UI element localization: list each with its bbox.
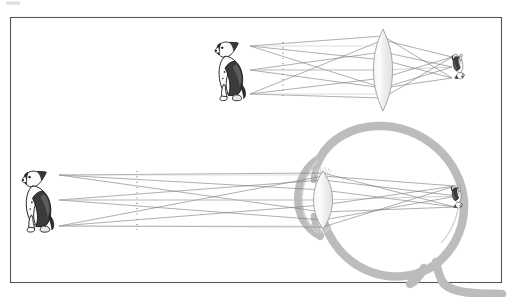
human-eye-diagram xyxy=(22,126,502,294)
ray-feet-axial xyxy=(250,57,452,94)
figure-border xyxy=(11,18,502,283)
ray-head-axial xyxy=(250,46,452,78)
ray-bundle-top-panel xyxy=(250,36,452,98)
scan-artifact xyxy=(6,2,20,5)
ray-mid-upper xyxy=(250,52,452,70)
image-dog-top xyxy=(452,54,465,79)
sclera xyxy=(320,126,464,277)
converging-lens-diagram xyxy=(215,29,465,111)
converging-lens xyxy=(374,29,393,111)
ray-feet-upper xyxy=(250,40,452,94)
ray-mid-upper xyxy=(59,180,457,200)
ray-feet-lower xyxy=(59,186,455,227)
figure-canvas xyxy=(0,0,513,297)
ray-mid-axial xyxy=(250,67,452,70)
lens-body xyxy=(374,29,393,111)
ray-head-lower xyxy=(59,175,455,212)
ray-head-axial xyxy=(59,175,455,207)
object-dog-top xyxy=(215,42,246,101)
optic-nerve xyxy=(436,262,502,294)
ray-head-upper xyxy=(250,36,452,78)
object-dog-bottom xyxy=(22,171,54,232)
ray-feet-lower xyxy=(250,57,452,98)
optics-figure: Image formation by a converging lens and… xyxy=(0,0,513,297)
